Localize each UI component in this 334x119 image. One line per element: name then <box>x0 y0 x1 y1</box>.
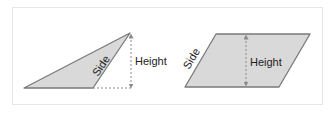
parallelogram-shape <box>185 34 310 87</box>
triangle-shape <box>24 33 130 88</box>
triangle-height-label: Height <box>135 55 167 67</box>
triangle-figure: Height Side <box>24 33 167 88</box>
parallelogram-height-label: Height <box>250 56 282 68</box>
diagram-canvas: Height Side Height Side <box>0 0 334 119</box>
parallelogram-figure: Height Side <box>180 34 310 87</box>
